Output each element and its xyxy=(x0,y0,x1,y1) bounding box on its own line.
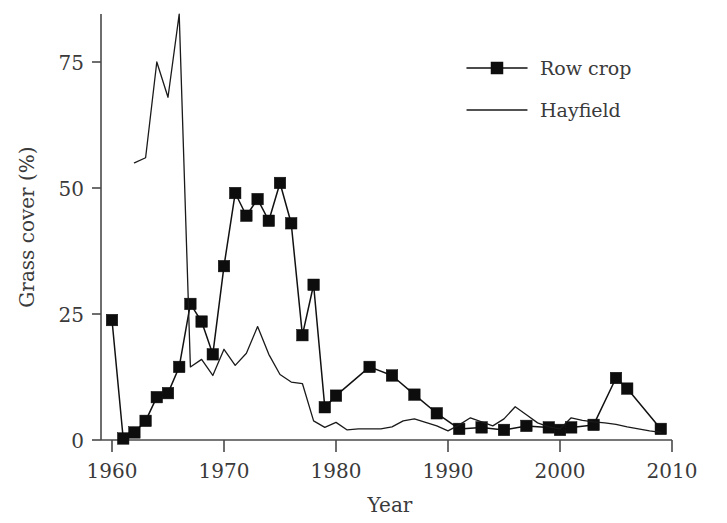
data-point xyxy=(431,408,443,420)
data-point xyxy=(252,193,264,205)
x-tick-label-2000: 2000 xyxy=(535,459,586,483)
data-point xyxy=(610,372,622,384)
data-point xyxy=(218,260,230,272)
legend-marker-rowcrop xyxy=(491,62,503,74)
data-point xyxy=(297,329,309,341)
x-tick-label-2010: 2010 xyxy=(647,459,698,483)
data-point xyxy=(129,427,141,439)
data-point xyxy=(285,218,297,230)
data-point xyxy=(196,316,208,328)
data-point xyxy=(117,433,129,445)
y-tick-label-25: 25 xyxy=(59,303,84,327)
legend: Row crop Hayfield xyxy=(467,57,631,121)
x-axis-title: Year xyxy=(367,493,413,517)
data-point xyxy=(207,349,219,361)
legend-label-hayfield: Hayfield xyxy=(540,99,621,121)
y-axis-title: Grass cover (%) xyxy=(15,146,39,307)
data-point xyxy=(162,387,174,399)
y-tick-label-75: 75 xyxy=(59,51,84,75)
legend-label-rowcrop: Row crop xyxy=(540,57,631,79)
data-point xyxy=(263,215,275,227)
data-point xyxy=(151,391,163,403)
data-point xyxy=(521,420,533,432)
data-point xyxy=(364,361,376,373)
chart-figure: 0 25 50 75 1960 1970 1980 1990 2000 2010… xyxy=(0,0,727,523)
data-point xyxy=(554,424,566,436)
y-tick-label-50: 50 xyxy=(59,177,84,201)
x-tick-label-1990: 1990 xyxy=(423,459,474,483)
y-tick-label-0: 0 xyxy=(71,429,84,453)
data-point xyxy=(498,424,510,436)
series-markers-row-crop xyxy=(106,177,666,444)
data-point xyxy=(173,361,185,373)
y-axis-ticks: 0 25 50 75 xyxy=(59,51,101,453)
x-axis-ticks: 1960 1970 1980 1990 2000 2010 xyxy=(87,440,698,483)
data-point xyxy=(319,401,331,413)
data-point xyxy=(229,187,241,199)
series-line-row-crop xyxy=(112,183,661,439)
x-tick-label-1970: 1970 xyxy=(199,459,250,483)
x-tick-label-1980: 1980 xyxy=(311,459,362,483)
data-point xyxy=(274,177,286,189)
grass-cover-line-chart: 0 25 50 75 1960 1970 1980 1990 2000 2010… xyxy=(0,0,727,523)
x-tick-label-1960: 1960 xyxy=(87,459,138,483)
data-point xyxy=(330,390,342,402)
data-point xyxy=(140,415,152,427)
data-point xyxy=(386,370,398,382)
data-point xyxy=(106,314,118,326)
data-point xyxy=(621,383,633,395)
data-point xyxy=(185,298,197,310)
data-point xyxy=(409,389,421,401)
data-point xyxy=(565,422,577,434)
data-point xyxy=(308,279,320,291)
data-point xyxy=(241,210,253,222)
